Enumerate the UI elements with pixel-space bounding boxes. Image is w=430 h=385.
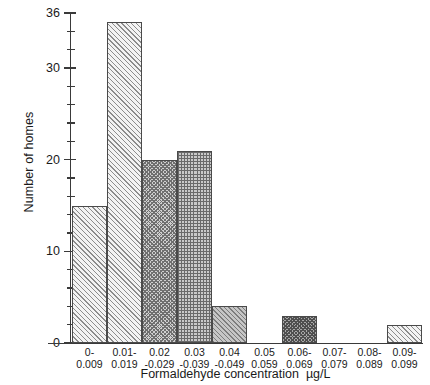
histogram-bar	[212, 306, 247, 343]
x-axis-title: Formaldehyde concentration µg/L	[48, 367, 423, 381]
histogram-bar	[282, 316, 317, 344]
y-axis-tick-label-text: 36	[34, 7, 60, 19]
y-axis-tick-label: 30	[0, 62, 60, 74]
y-axis-tick-label: 10	[0, 245, 60, 257]
histogram-bar	[142, 160, 177, 343]
histogram-bar	[387, 325, 422, 343]
y-axis-tick-label: 36	[0, 7, 60, 19]
x-axis-tick-label-line1: 0.09-	[381, 347, 428, 359]
plot-area	[72, 13, 422, 343]
histogram-bar	[107, 22, 142, 343]
y-axis-tick-label-text: 10	[34, 245, 60, 257]
y-axis-tick-label-text: 20	[34, 154, 60, 166]
x-axis-line	[48, 343, 423, 344]
histogram-bar	[177, 151, 212, 344]
histogram-chart: Number of homes 010203036 0-0.0090.01-0.…	[0, 0, 430, 385]
y-axis-tick-label-text: 30	[34, 62, 60, 74]
histogram-bar	[72, 206, 107, 344]
y-axis-tick-label: 20	[0, 154, 60, 166]
